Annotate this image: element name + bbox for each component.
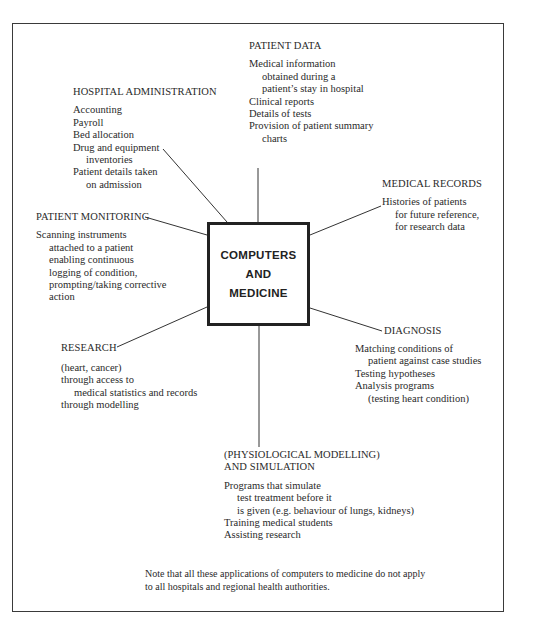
node-title: RESEARCH [61,342,117,354]
node-item: through access to [61,374,197,386]
node-item: obtained during a [249,71,374,83]
node-title: DIAGNOSIS [384,325,442,337]
node-item: logging of condition, [36,267,167,279]
node-item: Assisting research [224,529,414,541]
node-item: Scanning instruments [36,229,167,241]
node-title: MEDICAL RECORDS [382,178,482,190]
footnote: Note that all these applications of comp… [145,568,425,593]
node-title-line-1: (PHYSIOLOGICAL MODELLING) [224,449,414,461]
central-topic-box: COMPUTERS AND MEDICINE [207,222,310,326]
footnote-line-2: to all hospitals and regional health aut… [145,581,425,594]
node-item: Provision of patient summary [249,120,374,132]
node-item: attached to a patient [36,242,167,254]
node-title: HOSPITAL ADMINISTRATION [73,86,217,98]
node-diagnosis-items: Matching conditions of patient against c… [355,343,481,405]
node-title: PATIENT DATA [249,40,374,52]
node-item: Clinical reports [249,96,374,108]
connector-medical-records [310,206,381,235]
connector-diagnosis [310,308,382,331]
node-research: RESEARCH [61,342,117,360]
node-item: enabling continuous [36,254,167,266]
node-hospital-administration: HOSPITAL ADMINISTRATION Accounting Payro… [73,86,217,191]
center-line-1: COMPUTERS [220,246,296,265]
node-item: Testing hypotheses [355,368,481,380]
node-item: patient’s stay in hospital [249,83,374,95]
node-item: patient against case studies [355,355,481,367]
node-item: medical statistics and records [61,387,197,399]
node-item: Bed allocation [73,129,217,141]
node-item: Payroll [73,117,217,129]
node-title-line-2: AND SIMULATION [224,461,414,473]
center-line-2: AND [246,265,272,284]
node-item: Training medical students [224,517,414,529]
node-item: for future reference, [382,209,482,221]
node-item: prompting/taking corrective [36,279,167,291]
node-medical-records: MEDICAL RECORDS Histories of patients fo… [382,178,482,234]
node-title: PATIENT MONITORING [36,211,167,223]
node-simulation: (PHYSIOLOGICAL MODELLING) AND SIMULATION… [224,449,414,542]
node-item: Details of tests [249,108,374,120]
node-item: is given (e.g. behaviour of lungs, kidne… [224,505,414,517]
node-item: Programs that simulate [224,480,414,492]
node-item: Medical information [249,58,374,70]
node-item: (testing heart condition) [355,393,481,405]
node-item: Patient details taken [73,166,217,178]
node-item: (heart, cancer) [61,362,197,374]
node-patient-data: PATIENT DATA Medical information obtaine… [249,40,374,145]
node-item: Histories of patients [382,196,482,208]
node-item: test treatment before it [224,492,414,504]
footnote-line-1: Note that all these applications of comp… [145,568,425,581]
node-item: inventories [73,154,217,166]
node-item: on admission [73,179,217,191]
node-research-items: (heart, cancer) through access to medica… [61,362,197,412]
connector-research [117,307,207,347]
node-item: Accounting [73,104,217,116]
node-item: for research data [382,221,482,233]
node-item: through modelling [61,399,197,411]
node-item: Drug and equipment [73,142,217,154]
node-item: Analysis programs [355,380,481,392]
node-item: action [36,291,167,303]
node-diagnosis: DIAGNOSIS [384,325,442,343]
node-item: Matching conditions of [355,343,481,355]
node-item: charts [249,133,374,145]
center-line-3: MEDICINE [229,284,288,303]
node-patient-monitoring: PATIENT MONITORING Scanning instruments … [36,211,167,304]
